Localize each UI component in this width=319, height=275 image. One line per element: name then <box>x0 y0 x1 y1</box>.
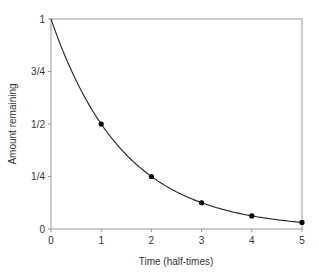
y-tick-label: 3/4 <box>31 66 45 77</box>
x-axis-label: Time (half-times) <box>139 256 214 267</box>
x-tick-label: 1 <box>98 235 104 246</box>
data-point-marker <box>99 121 104 126</box>
data-point-marker <box>149 174 154 179</box>
y-axis-label: Amount remaining <box>7 83 18 164</box>
plot-frame <box>51 19 302 229</box>
x-tick-label: 4 <box>249 235 255 246</box>
y-tick-label: 0 <box>39 224 45 235</box>
data-point-marker <box>299 220 304 225</box>
data-point-marker <box>249 213 254 218</box>
decay-chart: 01234501/41/23/41 Time (half-times) Amou… <box>0 0 319 275</box>
decay-curve <box>51 19 302 222</box>
y-tick-label: 1/4 <box>31 171 45 182</box>
data-point-marker <box>199 200 204 205</box>
y-tick-label: 1/2 <box>31 119 45 130</box>
x-tick-label: 2 <box>149 235 155 246</box>
axis-ticks: 01234501/41/23/41 <box>31 14 305 247</box>
x-tick-label: 3 <box>199 235 205 246</box>
y-tick-label: 1 <box>39 14 45 25</box>
data-markers <box>99 121 305 225</box>
x-tick-label: 5 <box>299 235 305 246</box>
x-tick-label: 0 <box>48 235 54 246</box>
